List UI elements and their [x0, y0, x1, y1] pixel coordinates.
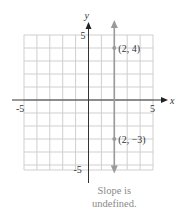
line-arrow-up-icon [111, 20, 118, 28]
chart: (2, 4)(2, −3) x y -5 5 5 -5 Slope is und… [0, 0, 179, 216]
x-axis-arrow-icon [161, 97, 168, 103]
data-point-label: (2, 4) [118, 43, 140, 55]
annotation-line-2: undefined. [92, 198, 137, 209]
y-tick-label-max: 5 [81, 30, 86, 41]
points: (2, 4)(2, −3) [112, 43, 145, 146]
x-axis-label: x [169, 95, 175, 106]
data-point-label: (2, −3) [118, 134, 145, 146]
y-tick-label-min: -5 [74, 164, 82, 175]
x-tick-label-max: 5 [150, 103, 155, 114]
y-axis-label: y [84, 10, 90, 21]
data-point [112, 46, 116, 50]
axes [12, 22, 168, 183]
x-tick-label-min: -5 [16, 103, 24, 114]
y-axis-arrow-icon [86, 22, 92, 29]
series [111, 20, 118, 174]
data-point [112, 137, 116, 141]
annotation-line-1: Slope is [98, 185, 132, 196]
